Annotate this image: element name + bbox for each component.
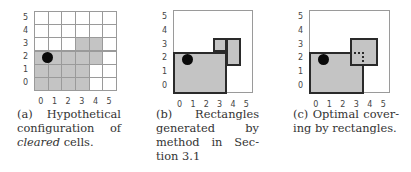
covering-rectangle: [213, 38, 227, 53]
y-tick-label: 2: [159, 54, 167, 62]
plot-frame-c: [309, 10, 390, 93]
panel-c: 543210 012345 (c) Optimal cover- ing by …: [0, 0, 137, 172]
y-tick-label: 2: [295, 54, 303, 62]
robot-marker: [182, 54, 193, 65]
y-tick-label: 5: [295, 13, 303, 21]
plot-frame-b: [173, 10, 253, 93]
caption-b-line-4: tion 3.1: [156, 149, 259, 163]
y-tick-label: 4: [159, 27, 167, 35]
y-tick-label: 1: [295, 68, 303, 76]
caption-b-line-2: generated by: [156, 121, 259, 135]
overlap-rectangle: [350, 52, 365, 67]
caption-b-line-3: method in Sec-: [156, 135, 259, 149]
robot-marker: [42, 52, 53, 63]
y-tick-label: 0: [159, 82, 167, 90]
caption-b: (b) Rectangles generated by method in Se…: [156, 107, 259, 163]
covering-rectangle: [226, 38, 240, 67]
y-tick-label: 4: [295, 27, 303, 35]
y-tick-label: 3: [295, 41, 303, 49]
caption-b-line-1: (b) Rectangles: [156, 107, 259, 121]
y-tick-label: 0: [295, 82, 303, 90]
y-tick-label: 3: [159, 41, 167, 49]
caption-c-line-1: (c) Optimal cover-: [293, 107, 399, 121]
y-tick-label: 5: [159, 13, 167, 21]
caption-c: (c) Optimal cover- ing by rectangles.: [293, 107, 399, 135]
caption-c-line-2: ing by rectangles.: [293, 121, 399, 135]
robot-marker: [318, 54, 329, 65]
y-tick-label: 1: [159, 68, 167, 76]
